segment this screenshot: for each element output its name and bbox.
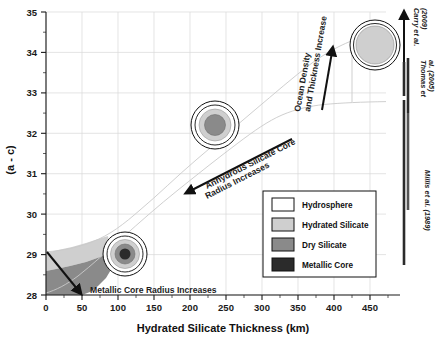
x-tick-label: 100	[110, 302, 126, 313]
legend-label-hydrated-silicate: Hydrated Silicate	[302, 221, 369, 230]
planet-diagram-bottom-left	[103, 232, 147, 276]
x-tick-label: 250	[218, 302, 234, 313]
citation-millis-line1: Millis et al. (1989)	[423, 170, 432, 231]
legend: Hydrosphere Hydrated Silicate Dry Silica…	[263, 191, 376, 277]
citation-labels: Carry et al. (2009) Thomas et al. (2005)…	[412, 8, 436, 231]
x-tick-label: 0	[43, 302, 48, 313]
x-tick-label: 150	[146, 302, 162, 313]
y-tick-label: 31	[26, 168, 37, 179]
x-tick-labels: 0 50 100 150 200 250 300 350 400 450	[43, 302, 378, 313]
y-tick-label: 34	[26, 47, 37, 58]
legend-label-dry-silicate: Dry Silicate	[302, 241, 347, 250]
y-tick-label: 35	[26, 7, 37, 18]
y-tick-label: 29	[26, 249, 37, 260]
citation-thomas-line1: Thomas et	[419, 60, 428, 97]
citation-carry-line2: (2009)	[420, 8, 429, 30]
planet-diagram-middle	[191, 101, 239, 149]
y-axis-title: (a - c)	[4, 145, 16, 175]
chart-svg: 0 50 100 150 200 250 300 350 400 450 28 …	[0, 0, 441, 345]
x-ticks	[46, 295, 388, 300]
x-tick-label: 300	[254, 302, 270, 313]
legend-swatch-hydrated-silicate	[272, 218, 294, 231]
y-tick-label: 32	[26, 128, 37, 139]
y-tick-label: 28	[26, 290, 37, 301]
legend-swatch-hydrosphere	[272, 198, 294, 211]
x-tick-label: 350	[290, 302, 306, 313]
citation-bars	[404, 16, 408, 265]
x-tick-label: 450	[362, 302, 378, 313]
planet-diagram-top-right	[350, 20, 400, 70]
y-tick-label: 33	[26, 87, 37, 98]
legend-label-hydrosphere: Hydrosphere	[302, 201, 353, 210]
chart-figure: 0 50 100 150 200 250 300 350 400 450 28 …	[0, 0, 441, 345]
citation-thomas-line2: al. (2005)	[427, 60, 436, 92]
x-tick-label: 200	[182, 302, 198, 313]
y-tick-label: 30	[26, 209, 37, 220]
y-tick-labels: 28 29 30 31 32 33 34 35	[26, 7, 37, 301]
y-ticks	[41, 12, 46, 295]
x-tick-label: 400	[326, 302, 342, 313]
annotation-metallic-label: Metallic Core Radius Increases	[90, 285, 217, 295]
citation-carry-line1: Carry et al.	[412, 8, 421, 46]
x-tick-label: 50	[77, 302, 88, 313]
x-axis-title: Hydrated Silicate Thickness (km)	[137, 322, 310, 334]
legend-swatch-dry-silicate	[272, 238, 294, 251]
legend-swatch-metallic-core	[272, 258, 294, 271]
legend-label-metallic-core: Metallic Core	[302, 261, 353, 270]
